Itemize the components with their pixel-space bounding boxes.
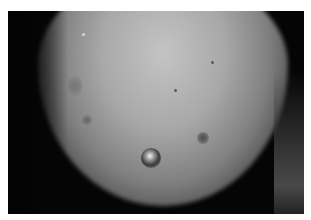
lesion-left <box>82 115 92 125</box>
skin-region <box>38 11 288 206</box>
spot-highlight <box>82 33 85 36</box>
lesion-faint-upper-left <box>68 76 82 96</box>
clinical-photo <box>8 11 304 214</box>
nipple <box>141 148 161 168</box>
shadow-left <box>8 11 68 214</box>
spot <box>174 89 177 92</box>
lesion-right <box>197 132 209 144</box>
background-fabric <box>274 71 304 214</box>
spot <box>211 61 214 64</box>
